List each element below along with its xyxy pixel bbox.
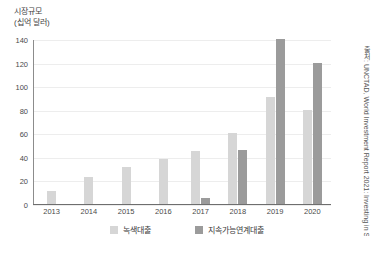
plot-area: 020406080100120140 [33,40,331,205]
y-axis-tick-label: 40 [20,153,28,162]
bar[interactable] [266,97,275,204]
legend-swatch [195,226,203,234]
y-axis-tick-label: 60 [20,130,28,139]
chart-container: 시장규모(십억 달러) 020406080100120140 201320142… [0,0,374,254]
bar-group [257,40,294,204]
y-axis-tick-label: 80 [20,106,28,115]
bar-groups [33,40,331,204]
y-axis-tick-label: 20 [20,177,28,186]
bar[interactable] [313,63,322,204]
x-axis-tick-labels: 20132014201520162017201820192020 [33,207,331,216]
bar[interactable] [238,150,247,204]
legend-item[interactable]: 지속가능연계대출 [195,224,264,235]
bar[interactable] [191,151,200,204]
bar[interactable] [276,39,285,204]
bar[interactable] [122,167,131,204]
y-axis-tick-label: 140 [15,36,28,45]
legend-label: 지속가능연계대출 [208,224,264,235]
bar-group [219,40,256,204]
bar[interactable] [228,133,237,204]
bar-group [294,40,331,204]
legend-label: 녹색대출 [123,224,151,235]
bar[interactable] [47,191,56,204]
bar[interactable] [159,159,168,204]
x-axis-tick-label: 2017 [182,207,219,216]
y-axis-tick-label: 100 [15,83,28,92]
y-axis-title-line1: 시장규모 [14,7,42,16]
bar[interactable] [84,177,93,204]
legend-swatch [110,226,118,234]
x-axis-tick-label: 2015 [108,207,145,216]
bar[interactable] [201,198,210,204]
x-axis-tick-label: 2018 [219,207,256,216]
x-axis-tick-label: 2013 [33,207,70,216]
bar-group [70,40,107,204]
y-axis-tick-label: 120 [15,59,28,68]
y-axis-title-line2: (십억 달러) [14,18,50,27]
source-note: 출처: UNCTAD, World Investment Report 2021… [360,46,372,236]
bar-group [33,40,70,204]
bar-group [145,40,182,204]
bar-group [182,40,219,204]
bar[interactable] [303,110,312,204]
x-axis-tick-label: 2019 [257,207,294,216]
x-axis-line [33,204,331,205]
x-axis-tick-label: 2020 [294,207,331,216]
legend-item[interactable]: 녹색대출 [110,224,151,235]
y-axis-title: 시장규모(십억 달러) [14,6,50,28]
grid-line [33,205,331,206]
y-axis-tick-label: 0 [24,201,28,210]
chart-legend: 녹색대출지속가능연계대출 [0,224,374,235]
x-axis-tick-label: 2014 [70,207,107,216]
x-axis-tick-label: 2016 [145,207,182,216]
bar-group [108,40,145,204]
